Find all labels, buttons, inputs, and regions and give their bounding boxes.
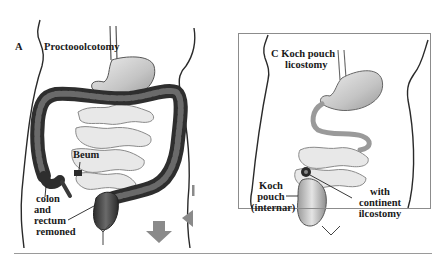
- panel-c-title-line-2: licostomy: [271, 59, 335, 70]
- removed-line-4: remoned: [34, 226, 74, 237]
- panel-a-ileum-label: Beum: [73, 149, 99, 160]
- panel-c-letter: C: [271, 48, 279, 59]
- panel-a-rectum: [93, 192, 118, 230]
- removed-line-3: rectum: [34, 215, 74, 226]
- panel-a-ileum-stub: [74, 170, 82, 176]
- panel-c-title-line-1: C Koch pouch: [271, 48, 335, 59]
- down-arrow-icon: [146, 221, 172, 243]
- pouch-line-2: pouch: [251, 191, 291, 202]
- bottom-rule-right: [222, 253, 432, 254]
- stoma-line-3: ilcostomy: [355, 208, 405, 219]
- stoma-line-1: with: [355, 186, 405, 197]
- panel-c-pelvis-v: [322, 226, 340, 235]
- panel-a-removed-label: colon and rectum remoned: [34, 193, 74, 237]
- panel-a-title: Proctooolcotomy: [44, 41, 120, 52]
- pouch-line-3: (internar): [251, 202, 291, 213]
- figure-canvas: A Proctooolcotomy Beum colon and rectum …: [0, 0, 446, 262]
- panel-c-pouch-label: Koch pouch (internar): [251, 180, 291, 213]
- panel-c-title: C Koch pouch licostomy: [271, 48, 335, 70]
- removed-line-2: and: [34, 204, 74, 215]
- panel-c-stoma-label: with continent ilcostomy: [355, 186, 405, 219]
- removed-line-1: colon: [34, 193, 74, 204]
- stoma-line-2: continent: [355, 197, 405, 208]
- panel-a-letter: A: [15, 41, 23, 52]
- panel-a-small-intestine: [72, 105, 154, 190]
- tick-mark: [192, 185, 195, 196]
- pouch-line-1: Koch: [251, 180, 291, 191]
- bottom-rule-left: [14, 253, 224, 254]
- panel-c-title-text-1: Koch pouch: [281, 48, 335, 59]
